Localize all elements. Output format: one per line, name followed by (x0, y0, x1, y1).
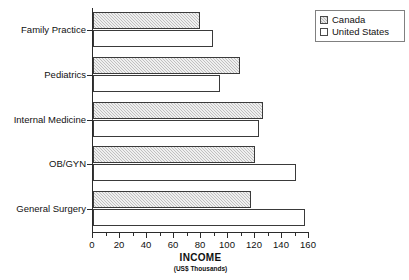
y-axis-tick (87, 120, 92, 121)
x-axis-major-tick (308, 233, 309, 238)
x-axis-major-tick (119, 233, 120, 238)
category-label-family-practice: Family Practice (0, 25, 86, 35)
legend-item-canada: Canada (320, 14, 400, 26)
x-axis-minor-tick (187, 233, 188, 236)
y-axis-tick (87, 30, 92, 31)
bar-group-pediatrics (93, 53, 309, 98)
x-axis-tick-label: 60 (158, 239, 188, 250)
bar-group-internal-medicine (93, 98, 309, 143)
x-axis-minor-tick (106, 233, 107, 236)
legend-label-canada: Canada (332, 14, 365, 26)
x-axis-major-tick (281, 233, 282, 238)
x-axis-tick-label: 120 (239, 239, 269, 250)
x-axis-major-tick (92, 233, 93, 238)
category-label-general-surgery: General Surgery (0, 204, 86, 214)
bar-united-states-family-practice (93, 30, 213, 47)
x-axis-minor-tick (133, 233, 134, 236)
bar-group-general-surgery (93, 187, 309, 232)
x-axis-tick-label: 100 (212, 239, 242, 250)
x-axis-minor-tick (241, 233, 242, 236)
x-axis-tick-labels: 020406080100120140160 (0, 239, 409, 251)
bar-groups (93, 8, 309, 232)
x-axis-subtitle: (US$ Thousands) (92, 265, 309, 272)
bar-united-states-internal-medicine (93, 120, 259, 137)
x-axis-tick-label: 160 (293, 239, 323, 250)
x-axis-major-tick (254, 233, 255, 238)
bar-canada-pediatrics (93, 57, 240, 74)
x-axis-title: INCOME (92, 252, 309, 263)
x-axis-tick-label: 40 (131, 239, 161, 250)
x-axis-minor-tick (160, 233, 161, 236)
x-axis-minor-tick (295, 233, 296, 236)
y-axis-tick (87, 75, 92, 76)
bar-canada-internal-medicine (93, 102, 263, 119)
bar-united-states-general-surgery (93, 209, 305, 226)
legend-swatch-canada-icon (320, 16, 328, 24)
x-axis-major-tick (173, 233, 174, 238)
category-label-internal-medicine: Internal Medicine (0, 115, 86, 125)
bar-group-ob-gyn (93, 142, 309, 187)
x-axis-tick-label: 80 (185, 239, 215, 250)
bar-united-states-ob-gyn (93, 164, 296, 181)
chart-legend: Canada United States (315, 10, 405, 42)
category-label-ob-gyn: OB/GYN (0, 159, 86, 169)
category-axis-labels: Family Practice Pediatrics Internal Medi… (0, 8, 86, 232)
bar-group-family-practice (93, 8, 309, 53)
legend-swatch-united-states-icon (320, 28, 328, 36)
x-axis-minor-tick (214, 233, 215, 236)
plot-area (92, 8, 309, 232)
bar-canada-family-practice (93, 12, 200, 29)
legend-label-united-states: United States (332, 26, 389, 38)
category-label-pediatrics: Pediatrics (0, 70, 86, 80)
chart-container: Canada United States Family Practice Ped… (0, 0, 409, 280)
x-axis-major-tick (146, 233, 147, 238)
bar-canada-general-surgery (93, 191, 251, 208)
y-axis-tick (87, 164, 92, 165)
x-axis-tick-label: 140 (266, 239, 296, 250)
x-axis-major-tick (200, 233, 201, 238)
x-axis-major-tick (227, 233, 228, 238)
bar-canada-ob-gyn (93, 146, 255, 163)
x-axis-tick-label: 0 (77, 239, 107, 250)
x-axis-tick-label: 20 (104, 239, 134, 250)
legend-item-united-states: United States (320, 26, 400, 38)
y-axis-tick (87, 209, 92, 210)
bar-united-states-pediatrics (93, 75, 220, 92)
x-axis-minor-tick (268, 233, 269, 236)
